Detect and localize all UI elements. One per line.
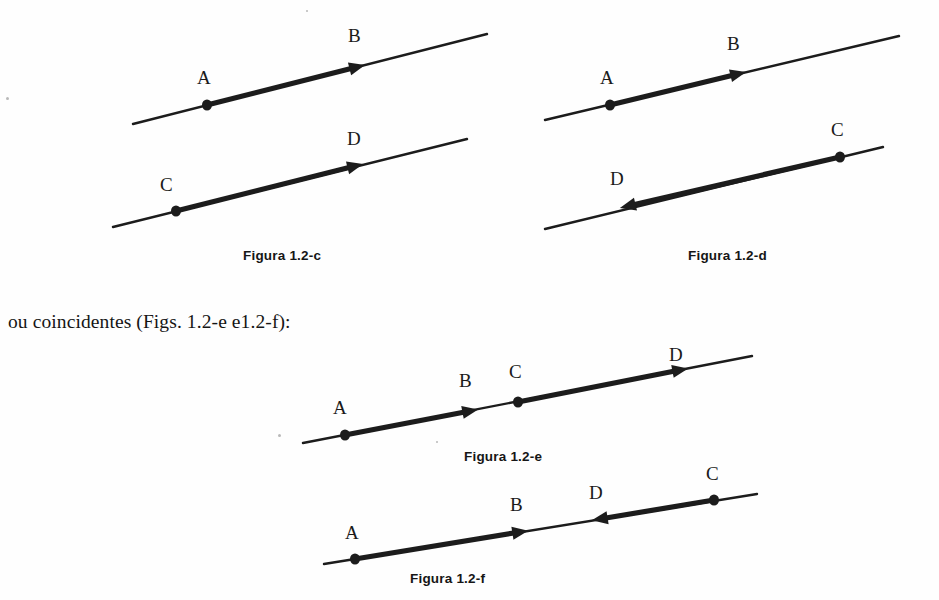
point-dot xyxy=(350,553,360,564)
point-label-b: B xyxy=(459,371,472,390)
oriented-segment xyxy=(355,532,520,559)
scanned-page: ABCDABCDACBDACBD Figura 1.2-cFigura 1.2-… xyxy=(0,0,939,600)
arrowhead-d-right xyxy=(671,365,688,378)
oriented-segment xyxy=(207,67,357,105)
endpoint-c-dot xyxy=(835,151,845,162)
point-label-a: A xyxy=(345,523,359,542)
point-dot xyxy=(202,99,212,110)
geometry-layer xyxy=(0,0,939,600)
point-dot xyxy=(513,396,523,407)
point-dot xyxy=(171,205,181,216)
oriented-segment xyxy=(610,74,738,105)
arrowhead-b-right xyxy=(729,69,746,82)
point-label-c: C xyxy=(706,464,719,483)
body-text-paragraph: ou coincidentes (Figs. 1.2-e e1.2-f): xyxy=(8,311,291,333)
oriented-segment xyxy=(176,166,355,211)
arrowhead-b-right xyxy=(348,63,365,76)
point-label-c: C xyxy=(509,362,522,381)
support-line xyxy=(303,356,752,443)
arrowhead-d-left xyxy=(620,198,637,211)
oriented-segment xyxy=(600,500,714,519)
point-label-a: A xyxy=(333,398,347,417)
figura-1-2-f xyxy=(324,494,757,565)
point-label-d: D xyxy=(347,129,361,148)
point-dot xyxy=(709,494,719,505)
support-line xyxy=(545,147,883,229)
figure-caption-figura-1-2-e: Figura 1.2-e xyxy=(464,449,542,464)
point-label-a: A xyxy=(197,68,211,87)
endpoint-a-dot xyxy=(605,99,615,110)
support-line xyxy=(324,494,757,564)
oriented-segment xyxy=(518,370,680,402)
arrowhead-b-right xyxy=(461,406,478,419)
point-label-d: D xyxy=(589,483,603,502)
support-line xyxy=(545,36,899,120)
point-dot xyxy=(835,151,845,162)
arrowhead-b-right xyxy=(511,527,528,540)
arrowhead-d-left xyxy=(592,511,609,524)
scan-speck xyxy=(436,441,438,443)
point-label-b: B xyxy=(510,495,523,514)
point-dot xyxy=(605,99,615,110)
figure-caption-figura-1-2-c: Figura 1.2-c xyxy=(243,248,321,263)
endpoint-a-dot xyxy=(202,99,212,110)
point-label-d: D xyxy=(610,169,624,188)
oriented-segment xyxy=(345,411,470,435)
scan-speck xyxy=(6,97,9,100)
figure-caption-figura-1-2-f: Figura 1.2-f xyxy=(410,571,485,586)
support-line xyxy=(133,34,487,124)
point-dot xyxy=(340,429,350,440)
point-label-c: C xyxy=(831,120,844,139)
oriented-segment xyxy=(628,157,840,206)
arrowhead-d-right xyxy=(346,162,363,175)
endpoint-a-dot xyxy=(350,553,360,564)
figura-1-2-e xyxy=(303,356,752,443)
scan-speck xyxy=(306,10,308,12)
point-label-a: A xyxy=(600,68,614,87)
point-label-d: D xyxy=(669,345,683,364)
endpoint-c-dot xyxy=(709,494,719,505)
endpoint-c-dot xyxy=(171,205,181,216)
figura-1-2-c xyxy=(113,34,487,227)
point-label-b: B xyxy=(348,26,361,45)
point-label-b: B xyxy=(727,34,740,53)
figura-1-2-d xyxy=(545,36,899,229)
scan-speck xyxy=(278,434,281,437)
endpoint-c-dot xyxy=(513,396,523,407)
endpoint-a-dot xyxy=(340,429,350,440)
point-label-c: C xyxy=(160,175,173,194)
figure-caption-figura-1-2-d: Figura 1.2-d xyxy=(688,248,767,263)
